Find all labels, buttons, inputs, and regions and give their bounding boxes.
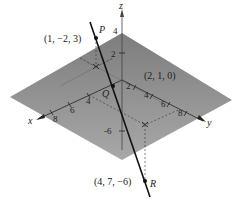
point-Q-name: Q [102,88,110,99]
z-tick-neg6: -6 [104,126,112,136]
point-R-name: R [149,178,156,189]
y-tick-4: 4 [144,90,149,100]
z-tick-2: 2 [111,49,116,59]
z-axis-label: z [118,0,123,11]
y-tick-8: 8 [178,108,183,118]
xy-plane [10,33,232,160]
y-tick-2: 2 [126,81,131,91]
x-tick-4: 4 [86,96,91,106]
x-axis-label: x [27,115,33,126]
point-P-name: P [98,24,105,35]
point-P [94,36,98,40]
x-tick-8: 8 [53,114,58,124]
point-P-coords: (1, −2, 3) [44,33,81,45]
point-Q-coords: (2, 1, 0) [144,70,176,82]
point-R-coords: (4, 7, −6) [94,176,131,188]
x-axis-arrow-icon [36,114,45,120]
y-axis-label: y [206,117,212,128]
y-tick-6: 6 [161,99,166,109]
z-tick-4: 4 [113,26,118,36]
x-tick-6: 6 [70,105,75,115]
point-R [143,179,147,183]
diagram-canvas: z x y 4 6 8 2 4 6 8 4 2 -6 P (1, −2, 3) … [0,0,239,207]
point-Q [111,84,115,88]
